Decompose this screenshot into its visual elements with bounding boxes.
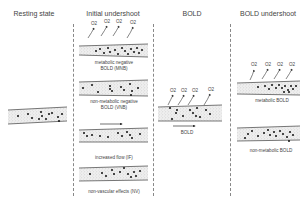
o2-label: O2 bbox=[170, 88, 176, 94]
vessel-vnb bbox=[79, 80, 148, 96]
vessel-metabolic-bold bbox=[237, 69, 300, 95]
o2-label: O2 bbox=[251, 62, 257, 68]
vessel-resting-state bbox=[8, 107, 67, 124]
o2-label: O2 bbox=[192, 88, 198, 94]
label-metabolic-bold: metabolic BOLD bbox=[244, 98, 300, 104]
vessel-non-vascular bbox=[79, 166, 148, 181]
o2-label: O2 bbox=[116, 19, 122, 25]
label-bold: BOLD bbox=[172, 130, 202, 136]
o2-arrows bbox=[250, 69, 292, 80]
o2-label: O2 bbox=[130, 20, 136, 26]
label-non-vascular: non-vascular effects (NV) bbox=[80, 189, 148, 195]
label-mnb-line2: BOLD (MNB) bbox=[84, 66, 144, 72]
o2-arrows bbox=[168, 94, 210, 105]
o2-label: O2 bbox=[91, 21, 97, 27]
o2-arrows bbox=[88, 26, 133, 38]
o2-label: O2 bbox=[265, 62, 271, 68]
label-non-metabolic-bold: non-metabolic BOLD bbox=[240, 148, 302, 154]
vessel-increased-flow bbox=[79, 124, 148, 142]
o2-label: O2 bbox=[277, 62, 283, 68]
o2-label: O2 bbox=[181, 88, 187, 94]
label-vnb-line2: BOLD (VNB) bbox=[80, 105, 148, 111]
label-vnb: non-metabolic negative BOLD (VNB) bbox=[80, 99, 148, 110]
label-mnb: metabolic negative BOLD (MNB) bbox=[84, 60, 144, 71]
label-increased-flow: increased flow (IF) bbox=[84, 155, 144, 161]
vessel-mnb bbox=[79, 26, 148, 57]
o2-label: O2 bbox=[208, 87, 214, 93]
vessel-non-metabolic-bold bbox=[237, 126, 300, 142]
o2-label: O2 bbox=[289, 62, 295, 68]
o2-label: O2 bbox=[104, 19, 110, 25]
label-vnb-line1: non-metabolic negative bbox=[80, 99, 148, 105]
vessel-bold bbox=[158, 94, 222, 126]
